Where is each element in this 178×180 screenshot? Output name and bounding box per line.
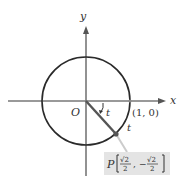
point-1-0-label: (1, 0) [132, 107, 159, 118]
radius-line [86, 101, 116, 134]
x-numerator: √2 [120, 156, 129, 164]
comma: , [133, 159, 136, 169]
x-axis-arrow-icon [158, 98, 166, 104]
y-denominator: 2 [150, 165, 154, 173]
leader-line [116, 134, 127, 152]
point-1-0 [128, 99, 131, 102]
arc-label: t [127, 122, 132, 133]
y-sign: − [139, 159, 147, 169]
point-p [113, 131, 118, 136]
unit-circle-diagram: y x O t (1, 0) t P √2 2 , − √2 2 [0, 0, 178, 180]
point-name: P [106, 158, 115, 171]
x-denominator: 2 [123, 165, 127, 173]
point-p-label: P √2 2 , − √2 2 [104, 152, 170, 175]
origin-label: O [71, 106, 80, 119]
y-axis-arrow-icon [83, 26, 89, 34]
x-axis-label: x [170, 94, 177, 107]
y-numerator: √2 [147, 156, 156, 164]
y-axis-label: y [79, 10, 87, 23]
angle-label: t [106, 107, 111, 118]
